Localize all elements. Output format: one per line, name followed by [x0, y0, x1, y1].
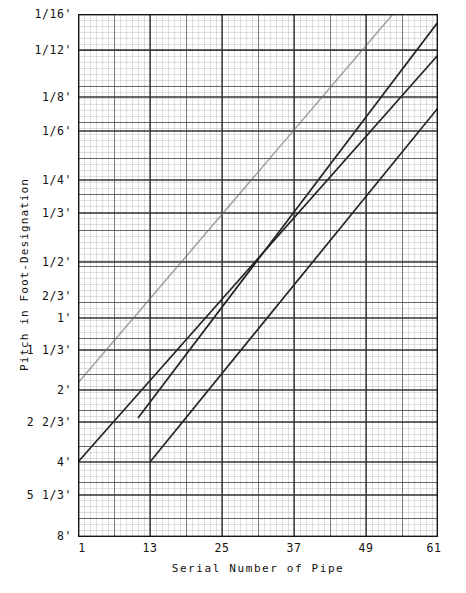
- pitch-vs-serial-number-chart: Pitch in Foot-Designation 1/16' 1/12' 1/…: [0, 0, 466, 593]
- x-tick-label: 13: [142, 541, 157, 555]
- plot-frame: [78, 14, 438, 537]
- x-tick-label: 61: [426, 541, 441, 555]
- x-tick-label: 49: [358, 541, 373, 555]
- x-axis-title: Serial Number of Pipe: [78, 562, 438, 575]
- plot-area: [78, 14, 438, 537]
- x-tick-label: 37: [286, 541, 301, 555]
- x-tick-label: 1: [78, 541, 86, 555]
- x-tick-label: 25: [214, 541, 229, 555]
